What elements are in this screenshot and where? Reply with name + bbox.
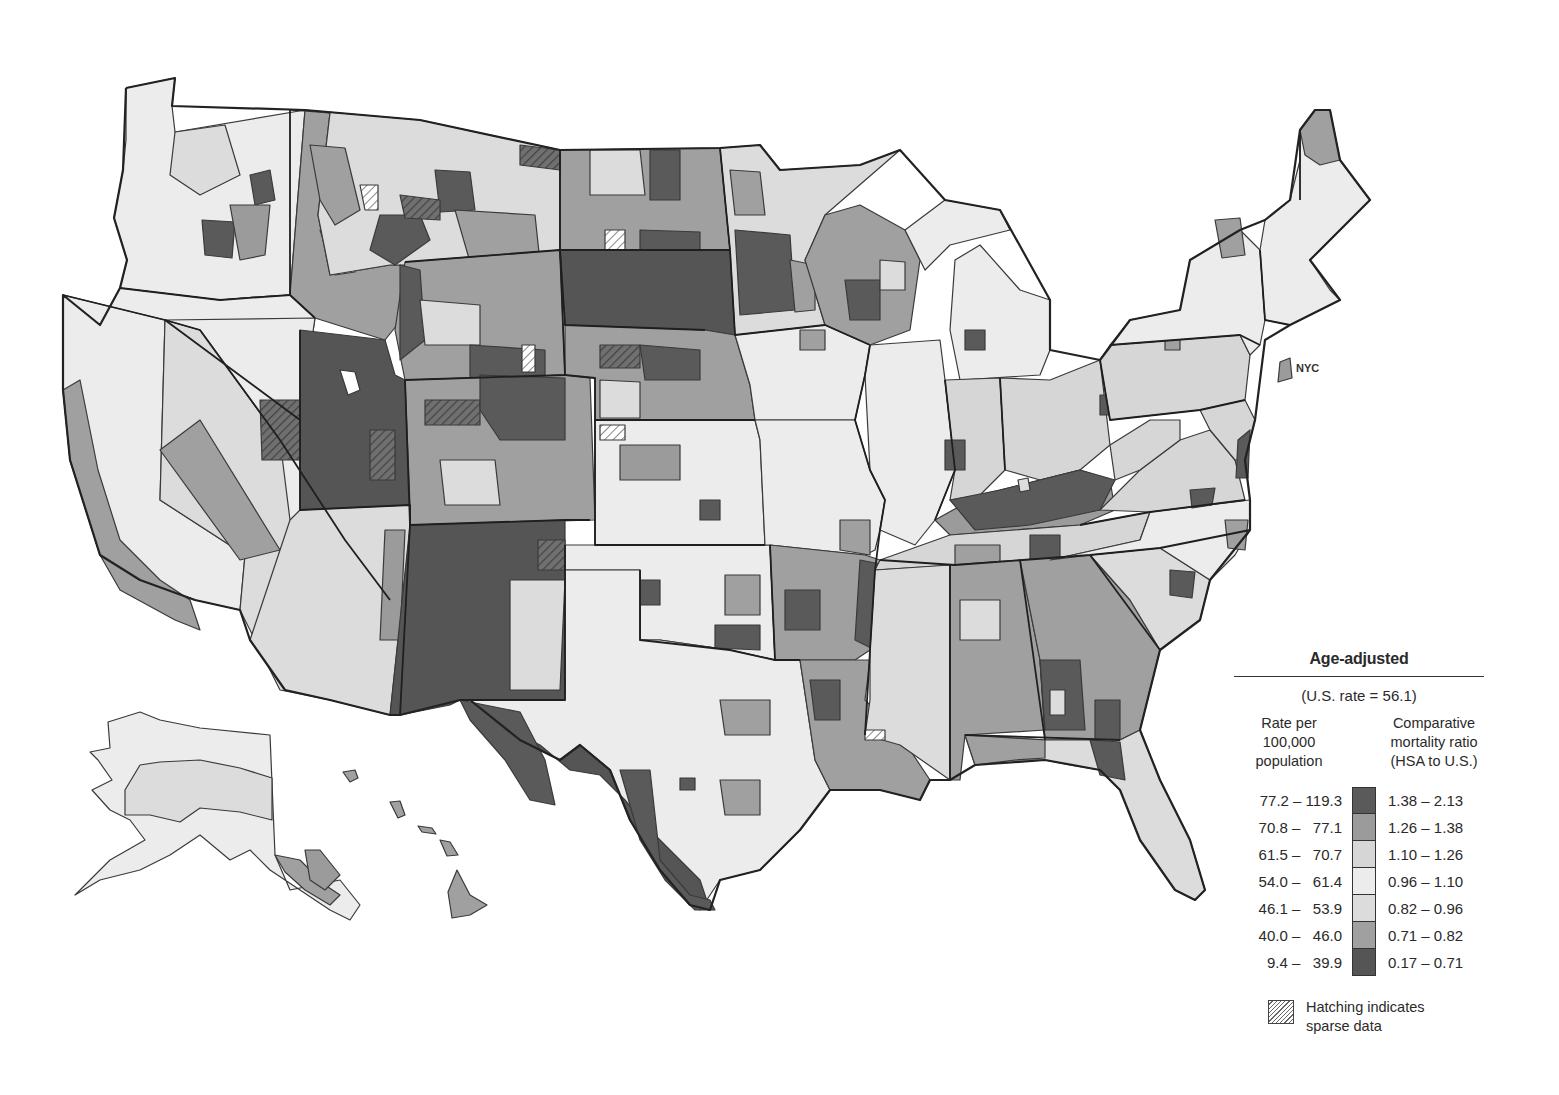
legend-class: 77.2 – 119.3 1.38 – 2.13 — [1234, 787, 1484, 814]
region-wyoming — [395, 250, 565, 380]
region-nebraska — [565, 325, 755, 420]
legend-swatch — [1352, 868, 1376, 895]
region-arkansas — [770, 545, 885, 660]
region-ohio — [1000, 360, 1115, 480]
region-iowa — [735, 325, 870, 420]
ratio-header: Comparative mortality ratio (HSA to U.S.… — [1374, 714, 1494, 771]
legend-swatch — [1352, 787, 1376, 814]
region-alaska — [75, 712, 360, 920]
legend-swatch — [1352, 841, 1376, 868]
legend-class: 46.1 – 53.9 0.82 – 0.96 — [1234, 895, 1484, 922]
legend-class: 54.0 – 61.4 0.96 – 1.10 — [1234, 868, 1484, 895]
region-new-york — [1110, 218, 1265, 355]
region-new-mexico — [390, 520, 565, 715]
legend-title: Age-adjusted — [1234, 650, 1484, 677]
region-kansas — [595, 420, 765, 545]
legend-swatch — [1352, 895, 1376, 922]
legend-class: 9.4 – 39.9 0.17 – 0.71 — [1234, 949, 1484, 976]
region-missouri — [755, 420, 885, 555]
region-montana — [305, 110, 560, 275]
us-rate: (U.S. rate = 56.1) — [1234, 687, 1484, 704]
region-colorado — [405, 375, 595, 525]
nyc-label: NYC — [1296, 362, 1319, 374]
region-washington — [114, 78, 305, 300]
region-florida — [965, 730, 1205, 900]
legend-class: 61.5 – 70.7 1.10 – 1.26 — [1234, 841, 1484, 868]
legend-swatch — [1352, 922, 1376, 949]
legend-classes: 77.2 – 119.3 1.38 – 2.13 70.8 – 77.1 1.2… — [1234, 787, 1484, 976]
hatch-note: Hatching indicates sparse data — [1268, 998, 1484, 1036]
region-hawaii — [343, 770, 487, 918]
legend-class: 70.8 – 77.1 1.26 – 1.38 — [1234, 814, 1484, 841]
legend: Age-adjusted (U.S. rate = 56.1) Rate per… — [1234, 650, 1484, 1036]
region-indiana — [945, 378, 1005, 500]
legend-class: 40.0 – 46.0 0.71 – 0.82 — [1234, 922, 1484, 949]
legend-headers: Rate per 100,000 population Comparative … — [1234, 714, 1484, 771]
rate-header: Rate per 100,000 population — [1234, 714, 1344, 771]
legend-swatch — [1352, 949, 1376, 976]
hatch-swatch-icon — [1268, 1000, 1294, 1024]
nyc-inset — [1278, 358, 1292, 382]
legend-swatch — [1352, 814, 1376, 841]
